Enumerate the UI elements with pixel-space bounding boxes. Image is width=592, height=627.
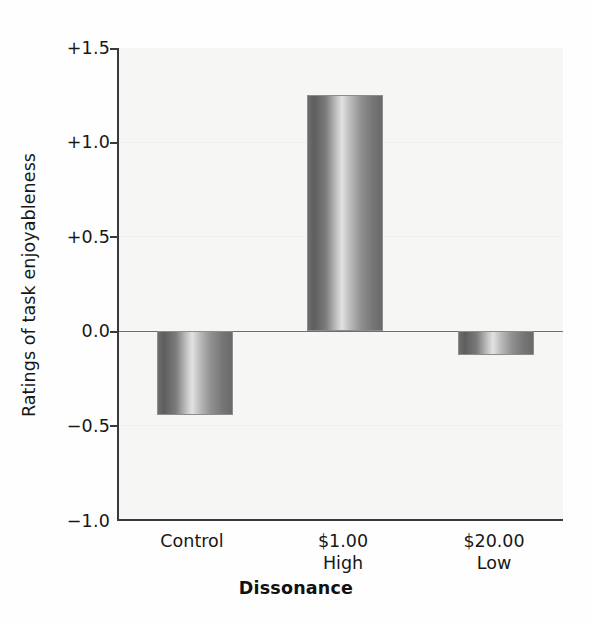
x-tick-twenty-dollar-line2: Low xyxy=(414,552,574,574)
chart-figure: Ratings of task enjoyableness +1.5 +1.0 … xyxy=(0,0,592,627)
x-tick-control-line1: Control xyxy=(160,531,223,551)
x-tick-one-dollar-line2: High xyxy=(263,552,423,574)
y-tick-mark-0p0 xyxy=(110,331,119,333)
x-tick-label-one-dollar: $1.00 High xyxy=(263,530,423,575)
x-axis-title: Dissonance xyxy=(0,578,592,598)
y-tick-mark-0p5 xyxy=(110,236,119,238)
x-tick-twenty-dollar-line1: $20.00 xyxy=(463,531,524,551)
y-tick-mark-1p0 xyxy=(110,142,119,144)
bar-twenty-dollar[interactable] xyxy=(458,331,534,355)
plot-area xyxy=(117,48,563,521)
gridline-neg0p5 xyxy=(119,425,563,426)
x-tick-one-dollar-line1: $1.00 xyxy=(318,531,368,551)
y-axis-tick-labels: +1.5 +1.0 +0.5 0.0 −0.5 −1.0 xyxy=(38,0,110,627)
y-axis-title-text: Ratings of task enjoyableness xyxy=(19,153,39,417)
y-tick-mark-neg0p5 xyxy=(110,425,119,427)
x-tick-label-control: Control xyxy=(112,530,272,552)
bar-control[interactable] xyxy=(157,331,233,416)
y-tick-label-2: +1.0 xyxy=(44,132,110,152)
bar-one-dollar[interactable] xyxy=(307,95,383,331)
y-tick-mark-1p5 xyxy=(110,48,119,50)
y-tick-label-4: 0.0 xyxy=(44,321,110,341)
y-tick-label-6: −1.0 xyxy=(44,511,110,531)
y-tick-label-3: +0.5 xyxy=(44,227,110,247)
y-tick-label-1: +1.5 xyxy=(44,38,110,58)
plot-inner xyxy=(119,48,563,519)
y-tick-label-5: −0.5 xyxy=(44,416,110,436)
x-tick-label-twenty-dollar: $20.00 Low xyxy=(414,530,574,575)
